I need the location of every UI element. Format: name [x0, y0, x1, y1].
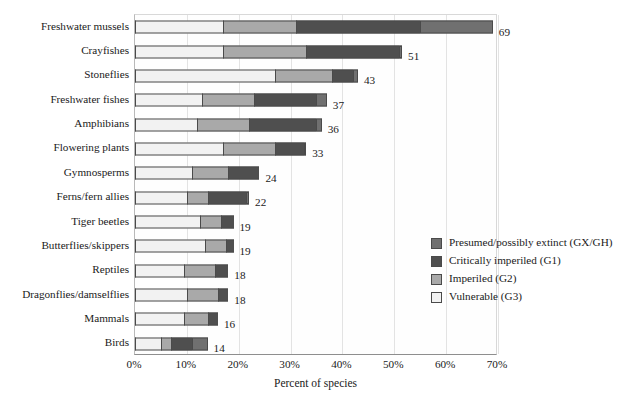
bar-segment-g2[interactable]	[197, 118, 249, 131]
bar-segment-gx-gh[interactable]	[246, 191, 249, 204]
bar-row	[135, 64, 496, 88]
bar-segment-g1[interactable]	[208, 313, 218, 326]
stacked-bar[interactable]	[135, 264, 228, 277]
bar-segment-g3[interactable]	[135, 289, 187, 302]
bar-segment-g2[interactable]	[200, 216, 221, 229]
stacked-bar[interactable]	[135, 313, 218, 326]
bar-segment-gx-gh[interactable]	[316, 94, 326, 107]
bar-segment-g3[interactable]	[135, 167, 192, 180]
stacked-bar[interactable]	[135, 94, 327, 107]
category-label: Freshwater mussels	[0, 21, 129, 32]
bar-segment-g3[interactable]	[135, 142, 223, 155]
category-label: Dragonflies/damselflies	[0, 289, 129, 300]
bar-segment-g1[interactable]	[275, 142, 304, 155]
stacked-bar[interactable]	[135, 142, 306, 155]
bar-segment-g2[interactable]	[275, 69, 332, 82]
x-tick-label: 10%	[176, 359, 197, 370]
bar-row	[135, 15, 496, 39]
bar-segment-g2[interactable]	[205, 240, 226, 253]
bar-segment-gx-gh[interactable]	[304, 142, 307, 155]
legend-item[interactable]: Imperiled (G2)	[431, 270, 617, 288]
stacked-bar[interactable]	[135, 289, 228, 302]
bar-segment-g3[interactable]	[135, 94, 202, 107]
bar-segment-g2[interactable]	[223, 21, 296, 34]
bar-segment-gx-gh[interactable]	[316, 118, 321, 131]
bar-segment-g3[interactable]	[135, 264, 184, 277]
x-tick-label: 20%	[227, 359, 248, 370]
bar-segment-g2[interactable]	[187, 191, 208, 204]
bar-total-label: 19	[240, 222, 251, 233]
bar-segment-g1[interactable]	[218, 289, 228, 302]
bar-segment-g3[interactable]	[135, 118, 197, 131]
bar-total-label: 19	[240, 246, 251, 257]
bar-row	[135, 112, 496, 136]
bar-segment-g3[interactable]	[135, 21, 223, 34]
stacked-bar[interactable]	[135, 216, 234, 229]
stacked-bar[interactable]	[135, 240, 234, 253]
stacked-bar[interactable]	[135, 167, 259, 180]
stacked-bar[interactable]	[135, 118, 322, 131]
bar-segment-g3[interactable]	[135, 69, 275, 82]
bar-segment-g3[interactable]	[135, 216, 200, 229]
bar-segment-g2[interactable]	[161, 337, 171, 350]
category-label: Reptiles	[0, 264, 129, 275]
legend-swatch-g1	[431, 256, 442, 267]
bar-segment-g1[interactable]	[254, 94, 316, 107]
bar-segment-gx-gh[interactable]	[420, 21, 493, 34]
x-tick-label: 40%	[331, 359, 352, 370]
bar-segment-g2[interactable]	[192, 167, 228, 180]
bar-row	[135, 39, 496, 63]
bar-total-label: 22	[255, 197, 266, 208]
stacked-bar[interactable]	[135, 191, 249, 204]
bar-segment-g1[interactable]	[332, 69, 353, 82]
bar-segment-g1[interactable]	[171, 337, 192, 350]
bar-total-label: 36	[328, 124, 339, 135]
bar-segment-g1[interactable]	[306, 45, 399, 58]
bar-total-label: 43	[364, 75, 375, 86]
bar-segment-g2[interactable]	[184, 313, 207, 326]
bar-segment-g2[interactable]	[184, 264, 215, 277]
category-label: Gymnosperms	[0, 167, 129, 178]
bar-segment-g3[interactable]	[135, 45, 223, 58]
legend-item[interactable]: Vulnerable (G3)	[431, 288, 617, 306]
category-label: Ferns/fern allies	[0, 191, 129, 202]
bar-total-label: 18	[234, 295, 245, 306]
x-tick-label: 30%	[279, 359, 300, 370]
stacked-bar[interactable]	[135, 69, 358, 82]
bar-segment-g1[interactable]	[221, 216, 234, 229]
bar-segment-g2[interactable]	[187, 289, 218, 302]
stacked-bar[interactable]	[135, 337, 208, 350]
bar-total-label: 18	[234, 270, 245, 281]
legend-label: Critically imperiled (G1)	[449, 255, 561, 266]
stacked-bar[interactable]	[135, 21, 493, 34]
bar-segment-gx-gh[interactable]	[192, 337, 208, 350]
chart-legend: Presumed/possibly extinct (GX/GH)Critica…	[431, 234, 617, 306]
bar-segment-g3[interactable]	[135, 313, 184, 326]
bar-segment-g2[interactable]	[223, 142, 275, 155]
bar-segment-g3[interactable]	[135, 240, 205, 253]
x-tick-label: 50%	[383, 359, 404, 370]
bar-segment-g1[interactable]	[296, 21, 420, 34]
x-tick-label: 60%	[435, 359, 456, 370]
bar-segment-g2[interactable]	[223, 45, 306, 58]
x-tick-label: 0%	[127, 359, 142, 370]
bar-segment-g1[interactable]	[215, 264, 228, 277]
category-label: Freshwater fishes	[0, 94, 129, 105]
legend-item[interactable]: Presumed/possibly extinct (GX/GH)	[431, 234, 617, 252]
bar-segment-g3[interactable]	[135, 191, 187, 204]
bar-total-label: 51	[408, 51, 419, 62]
bar-segment-g3[interactable]	[135, 337, 161, 350]
bar-segment-g1[interactable]	[226, 240, 234, 253]
bar-total-label: 24	[265, 173, 276, 184]
category-label: Tiger beetles	[0, 216, 129, 227]
legend-item[interactable]: Critically imperiled (G1)	[431, 252, 617, 270]
bar-segment-gx-gh[interactable]	[353, 69, 358, 82]
bar-segment-g1[interactable]	[249, 118, 316, 131]
bar-segment-g2[interactable]	[202, 94, 254, 107]
bar-segment-gx-gh[interactable]	[399, 45, 402, 58]
bar-segment-g1[interactable]	[228, 167, 259, 180]
bar-segment-g1[interactable]	[208, 191, 247, 204]
bar-row	[135, 186, 496, 210]
stacked-bar[interactable]	[135, 45, 402, 58]
